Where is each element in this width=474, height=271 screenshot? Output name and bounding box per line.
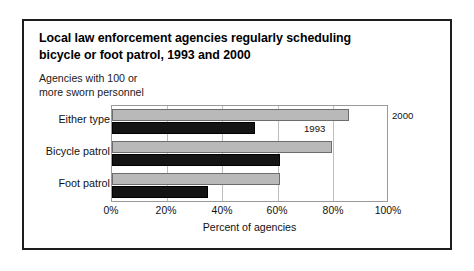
xtick-60: 60% <box>267 205 288 216</box>
category-label-foot-patrol: Foot patrol <box>34 177 110 189</box>
category-label-either-type: Either type <box>34 113 110 125</box>
category-axis: Either type Bicycle patrol Foot patrol <box>34 107 110 201</box>
value-axis: 0% 20% 40% 60% 80% 100% <box>111 205 388 221</box>
category-label-bicycle-patrol: Bicycle patrol <box>34 145 110 157</box>
bar-either-type-1993 <box>112 122 255 134</box>
bar-bicycle-patrol-2000 <box>112 141 332 153</box>
plot-area <box>111 105 388 202</box>
series-label-2000: 2000 <box>392 110 413 121</box>
bar-bicycle-patrol-1993 <box>112 154 280 166</box>
bar-foot-patrol-1993 <box>112 186 208 198</box>
series-label-1993: 1993 <box>304 123 325 134</box>
xtick-40: 40% <box>212 205 233 216</box>
bar-either-type-2000 <box>112 109 349 121</box>
xtick-20: 20% <box>156 205 177 216</box>
xtick-100: 100% <box>375 205 402 216</box>
bar-foot-patrol-2000 <box>112 173 280 185</box>
figure-card: Local law enforcement agencies regularly… <box>22 19 452 250</box>
xtick-80: 80% <box>323 205 344 216</box>
chart-plot-wrapper: Either type Bicycle patrol Foot patrol <box>24 21 454 252</box>
xtick-0: 0% <box>103 205 118 216</box>
x-axis-title: Percent of agencies <box>111 221 388 233</box>
